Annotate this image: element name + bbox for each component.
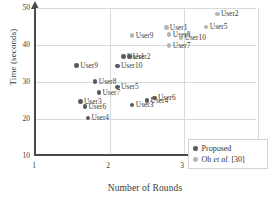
data-point (115, 64, 120, 69)
gridline-horizontal (36, 45, 256, 46)
data-point (78, 99, 83, 104)
data-point (74, 63, 79, 68)
legend-item[interactable]: Oh et al. [30] (193, 154, 263, 165)
data-point (167, 43, 172, 48)
legend-marker-icon (193, 157, 198, 162)
data-point-label: User4 (91, 114, 109, 121)
data-point-label: User2 (133, 53, 151, 60)
data-point (83, 104, 88, 109)
data-point-label: User9 (80, 62, 98, 69)
data-point-label: User7 (103, 89, 121, 96)
y-tick-label: 10 (4, 152, 30, 160)
data-point (179, 35, 184, 40)
data-point (164, 25, 169, 30)
legend-marker-icon (193, 146, 198, 151)
data-point (121, 54, 126, 59)
data-point (115, 85, 120, 90)
legend-item[interactable]: Proposed (193, 143, 263, 154)
data-point-label: User10 (121, 62, 142, 69)
data-point (93, 79, 98, 84)
data-point-label: User10 (185, 34, 206, 41)
data-point (130, 33, 135, 38)
data-point-label: User6 (88, 103, 106, 110)
y-axis-label: Time (seconds) (8, 9, 18, 105)
data-point (215, 12, 220, 17)
data-point-label: User6 (158, 94, 176, 101)
data-point-label: User5 (210, 23, 228, 30)
data-point (145, 98, 150, 103)
y-tick-label: 50 (4, 4, 30, 12)
data-point (204, 25, 209, 30)
data-point (130, 103, 135, 108)
scatter-chart: Time (seconds) Number of Rounds 10203040… (0, 0, 276, 207)
x-axis-label: Number of Rounds (34, 183, 256, 193)
plot-area: User9User8User7User3User6User4User5User1… (34, 8, 256, 156)
data-point (152, 96, 157, 101)
data-point (127, 54, 132, 59)
data-point (97, 90, 102, 95)
legend-label: Proposed (202, 145, 232, 153)
x-tick-label: 1 (23, 162, 45, 170)
data-point-label: User7 (173, 42, 191, 49)
x-tick-label: 2 (97, 162, 119, 170)
data-point-label: User5 (121, 83, 139, 90)
plot-inner: User9User8User7User3User6User4User5User1… (36, 8, 256, 154)
legend-label: Oh et al. [30] (202, 156, 245, 164)
y-tick-label: 40 (4, 41, 30, 49)
y-tick-label: 20 (4, 115, 30, 123)
gridline-vertical (258, 8, 259, 154)
data-point (167, 32, 172, 37)
data-point-label: User2 (221, 10, 239, 17)
chart-legend: ProposedOh et al. [30] (188, 139, 268, 169)
y-tick-label: 30 (4, 78, 30, 86)
gridline-horizontal (36, 119, 256, 120)
data-point-label: User8 (99, 78, 117, 85)
gridline-horizontal (36, 82, 256, 83)
data-point-label: User9 (136, 32, 154, 39)
